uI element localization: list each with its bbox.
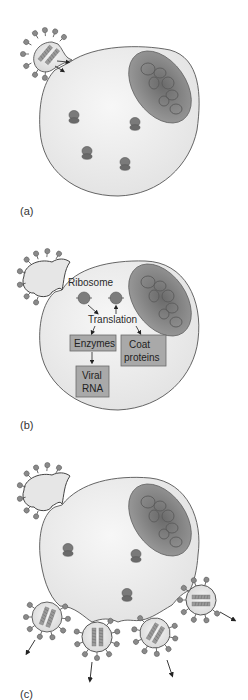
svg-text:Enzymes: Enzymes (74, 338, 115, 349)
ribosome-icon (63, 544, 73, 557)
svg-text:Coat: Coat (129, 339, 150, 350)
ribosome-icon (69, 111, 79, 124)
svg-text:proteins: proteins (124, 352, 160, 363)
panel-a (20, 27, 204, 196)
ribosome-icon (82, 147, 92, 160)
panel-b: Ribosome Translation Enzymes Coat protei… (17, 248, 205, 410)
release-arrow (27, 640, 35, 653)
panel-c (17, 462, 234, 680)
release-arrow (220, 612, 234, 620)
ribosome-label: Ribosome (68, 277, 113, 288)
release-arrow (167, 660, 172, 675)
budding-virion (23, 601, 70, 640)
release-arrow (90, 662, 92, 680)
svg-text:Viral: Viral (82, 370, 102, 381)
panel-label-b: (b) (20, 419, 33, 431)
svg-text:RNA: RNA (82, 383, 103, 394)
ribosome-icon (130, 118, 140, 131)
panel-label-a: (a) (20, 205, 33, 217)
ribosome-icon (131, 550, 141, 563)
viral-rna-box: Viral RNA (76, 366, 109, 397)
ribosome-icon (120, 158, 130, 171)
panel-label-c: (c) (20, 688, 33, 700)
enzymes-box: Enzymes (70, 335, 116, 351)
ribosome-icon (122, 589, 132, 602)
translation-label: Translation (88, 314, 137, 325)
coat-proteins-box: Coat proteins (121, 335, 166, 366)
